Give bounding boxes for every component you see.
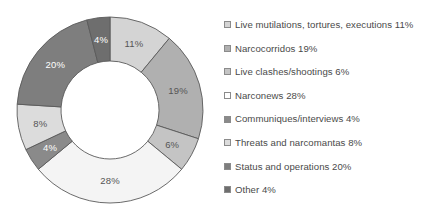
legend-item[interactable]: Narconews 28% — [224, 84, 435, 108]
legend-item-label: Narconews 28% — [235, 91, 306, 101]
donut-slice-value-label: 28% — [100, 175, 120, 186]
legend-item[interactable]: Threats and narcomantas 8% — [224, 131, 435, 155]
legend-item[interactable]: Status and operations 20% — [224, 155, 435, 179]
legend-swatch-icon — [224, 68, 231, 75]
donut-slice-value-label: 11% — [125, 38, 144, 49]
legend-item[interactable]: Other 4% — [224, 178, 435, 202]
donut-chart-svg: 11%19%6%28%4%8%20%4% — [0, 0, 215, 214]
legend-item[interactable]: Live clashes/shootings 6% — [224, 60, 435, 84]
legend-item-label: Live mutilations, tortures, executions 1… — [235, 20, 413, 30]
legend-item[interactable]: Narcocorridos 19% — [224, 37, 435, 61]
donut-slice-value-label: 4% — [94, 34, 108, 45]
legend-item-label: Narcocorridos 19% — [235, 44, 317, 54]
legend-swatch-icon — [224, 163, 231, 170]
donut-slice-value-label: 8% — [33, 118, 47, 129]
legend-swatch-icon — [224, 186, 231, 193]
legend-swatch-icon — [224, 45, 231, 52]
donut-slice-value-label: 20% — [45, 59, 65, 70]
donut-chart-plot-area: 11%19%6%28%4%8%20%4% — [0, 0, 215, 214]
legend-swatch-icon — [224, 139, 231, 146]
legend-item-label: Live clashes/shootings 6% — [235, 67, 349, 77]
donut-slice-value-label: 19% — [168, 85, 188, 96]
legend-item[interactable]: Live mutilations, tortures, executions 1… — [224, 13, 435, 37]
legend-swatch-icon — [224, 116, 231, 123]
legend-item-label: Communiques/interviews 4% — [235, 114, 360, 124]
legend-item-label: Threats and narcomantas 8% — [235, 138, 362, 148]
legend-swatch-icon — [224, 21, 231, 28]
legend-item-label: Status and operations 20% — [235, 162, 351, 172]
legend-item[interactable]: Communiques/interviews 4% — [224, 107, 435, 131]
donut-chart-figure: 11%19%6%28%4%8%20%4% Live mutilations, t… — [0, 0, 435, 214]
chart-legend: Live mutilations, tortures, executions 1… — [224, 13, 435, 208]
legend-item-label: Other 4% — [235, 185, 276, 195]
donut-slice-value-label: 4% — [43, 142, 57, 153]
legend-swatch-icon — [224, 92, 231, 99]
donut-slice-value-label: 6% — [165, 139, 179, 150]
